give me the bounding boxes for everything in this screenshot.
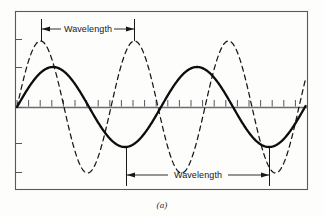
wave-figure: Wavelength Wavelength (a) — [0, 0, 324, 217]
wave-diagram-canvas: Wavelength Wavelength — [0, 0, 324, 217]
figure-frame — [16, 12, 308, 190]
figure-caption: (a) — [156, 200, 167, 210]
bottom-wavelength-dimension: Wavelength — [127, 148, 270, 186]
bottom-dim-arrowhead-left — [127, 172, 135, 177]
figure-caption-wrap: (a) — [0, 194, 324, 212]
top-wavelength-dimension: Wavelength — [42, 19, 135, 41]
top-dim-arrowhead-left — [42, 26, 50, 31]
bottom-dim-arrowhead-right — [261, 172, 269, 177]
top-wavelength-label: Wavelength — [64, 24, 112, 34]
top-dim-arrowhead-right — [126, 26, 134, 31]
bottom-wavelength-label: Wavelength — [174, 170, 222, 180]
